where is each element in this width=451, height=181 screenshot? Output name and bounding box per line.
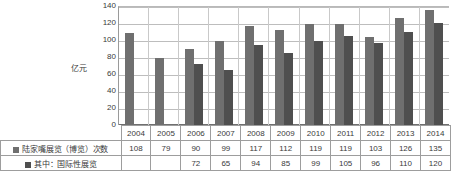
table-cell-2007-series2: 65 (211, 156, 241, 171)
table-header-2009: 2009 (271, 126, 301, 141)
table-cell-2013-series1: 126 (391, 141, 421, 156)
y-tick-80: 80 (82, 53, 116, 61)
table-cell-2007-series1: 99 (211, 141, 241, 156)
table-header-2005: 2005 (151, 126, 181, 141)
table-header-2004: 2004 (121, 126, 151, 141)
table-row: 其中：国际性展览726594859910596110120 (1, 156, 451, 171)
bar-2013-series1 (395, 18, 404, 125)
bar-2010-series1 (305, 24, 314, 125)
legend-label-series2: 其中：国际性展览 (34, 160, 96, 169)
table-cell-2013-series2: 110 (391, 156, 421, 171)
bar-2007-series2 (224, 70, 233, 125)
plot-area (118, 6, 449, 125)
table-cell-2005-series2 (151, 156, 181, 171)
table-cell-2008-series2: 94 (241, 156, 271, 171)
table-row-years: 2004200520062007200820092010201120122013… (1, 126, 451, 141)
y-tick-60: 60 (82, 70, 116, 78)
y-axis-tick-labels: 140120100806040200 (82, 0, 116, 131)
table-header-2007: 2007 (211, 126, 241, 141)
bar-group-2014 (420, 7, 449, 125)
table-cell-2005-series1: 79 (151, 141, 181, 156)
table-header-2013: 2013 (391, 126, 421, 141)
bar-groups (119, 7, 449, 125)
table-cell-2012-series2: 96 (361, 156, 391, 171)
bar-2005-series1 (155, 58, 164, 125)
legend-item-series2[interactable]: 其中：国际性展览 (1, 156, 122, 171)
bar-2008-series2 (254, 45, 263, 125)
bar-2007-series1 (215, 41, 224, 125)
table-header-2014: 2014 (421, 126, 451, 141)
table-row: 陆家嘴展览（博览）次数10879909911711211911910312613… (1, 141, 451, 156)
bar-2008-series1 (245, 26, 254, 125)
y-tick-20: 20 (82, 104, 116, 112)
table-cell-2006-series2: 72 (181, 156, 211, 171)
bar-2014-series1 (425, 10, 434, 125)
table-cell-2014-series1: 135 (421, 141, 451, 156)
bar-group-2009 (269, 7, 299, 125)
bar-group-2004 (119, 7, 149, 125)
table-cell-2009-series2: 85 (271, 156, 301, 171)
table-cell-2004-series2 (121, 156, 151, 171)
chart-container: 亿元 140120100806040200 200420052006200720… (0, 0, 451, 181)
bar-group-2013 (390, 7, 420, 125)
y-tick-120: 120 (82, 19, 116, 27)
bar-2012-series1 (365, 37, 374, 125)
data-table: 2004200520062007200820092010201120122013… (0, 125, 451, 171)
table-header-2011: 2011 (331, 126, 361, 141)
bar-group-2006 (179, 7, 209, 125)
table-header-2008: 2008 (241, 126, 271, 141)
bar-group-2012 (360, 7, 390, 125)
bar-2006-series2 (194, 64, 203, 125)
bar-2014-series2 (434, 23, 443, 125)
bar-2009-series1 (275, 30, 284, 125)
table-cell-2011-series1: 119 (331, 141, 361, 156)
table-cell-2004-series1: 108 (121, 141, 151, 156)
bar-group-2007 (209, 7, 239, 125)
table-cell-2010-series2: 99 (301, 156, 331, 171)
table-cell-2010-series1: 119 (301, 141, 331, 156)
bar-2011-series2 (344, 36, 353, 125)
bar-group-2005 (149, 7, 179, 125)
legend-item-series1[interactable]: 陆家嘴展览（博览）次数 (1, 141, 122, 156)
bar-2013-series2 (404, 32, 413, 126)
plot-area-wrapper: 亿元 140120100806040200 (0, 0, 451, 131)
bar-2009-series2 (284, 53, 293, 125)
table-cell-2009-series1: 112 (271, 141, 301, 156)
data-table-wrapper: 2004200520062007200820092010201120122013… (0, 125, 451, 171)
bar-group-2010 (300, 7, 330, 125)
bar-2004-series1 (125, 33, 134, 125)
bar-2006-series1 (185, 49, 194, 126)
table-cell-2012-series1: 103 (361, 141, 391, 156)
bar-2010-series2 (314, 41, 323, 125)
y-tick-40: 40 (82, 87, 116, 95)
table-cell-2011-series2: 105 (331, 156, 361, 171)
bar-group-2008 (239, 7, 269, 125)
y-tick-100: 100 (82, 36, 116, 44)
table-header-2010: 2010 (301, 126, 331, 141)
table-header-2012: 2012 (361, 126, 391, 141)
table-corner-cell (1, 126, 122, 141)
table-cell-2014-series2: 120 (421, 156, 451, 171)
table-cell-2008-series1: 117 (241, 141, 271, 156)
legend-label-series1: 陆家嘴展览（博览）次数 (22, 145, 108, 154)
legend-swatch-icon-series2 (25, 162, 31, 168)
bar-2012-series2 (374, 43, 383, 125)
bar-2011-series1 (335, 24, 344, 125)
table-header-2006: 2006 (181, 126, 211, 141)
table-cell-2006-series1: 90 (181, 141, 211, 156)
y-tick-140: 140 (82, 2, 116, 10)
bar-group-2011 (330, 7, 360, 125)
legend-swatch-icon-series1 (13, 147, 19, 153)
